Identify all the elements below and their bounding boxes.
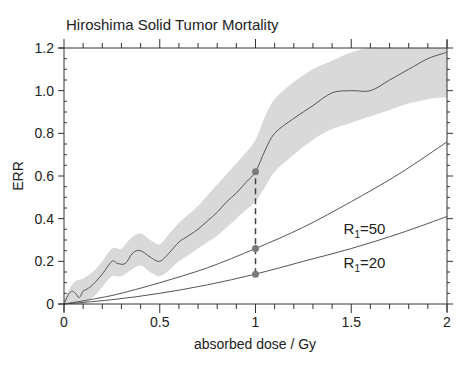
x-tick-label: 0.5 [150, 314, 170, 330]
x-tick-label: 1 [252, 314, 260, 330]
y-tick-label: 1.0 [35, 83, 55, 99]
y-tick-label: 1.2 [35, 40, 55, 56]
curve-label: R1=50 [344, 220, 386, 240]
y-tick-label: 0.4 [35, 211, 55, 227]
confidence-band [64, 48, 447, 305]
y-axis-label: ERR [10, 161, 26, 191]
y-tick-label: 0.6 [35, 168, 55, 184]
data-point-marker [252, 245, 259, 252]
y-tick-label: 0.8 [35, 125, 55, 141]
x-tick-label: 1.5 [342, 314, 362, 330]
x-axis-label: absorbed dose / Gy [194, 336, 316, 352]
x-tick-label: 2 [443, 314, 451, 330]
annotations: R1=50R1=20 [344, 220, 386, 274]
curve-label: R1=20 [344, 254, 386, 274]
chart: Hiroshima Solid Tumor Mortality 00.511.5… [0, 0, 468, 368]
confidence-band-area [64, 48, 447, 305]
chart-title: Hiroshima Solid Tumor Mortality [66, 16, 279, 33]
y-tick-label: 0.2 [35, 253, 55, 269]
data-point-marker [252, 271, 259, 278]
x-tick-label: 0 [60, 314, 68, 330]
data-point-marker [252, 168, 259, 175]
y-tick-label: 0 [46, 296, 54, 312]
